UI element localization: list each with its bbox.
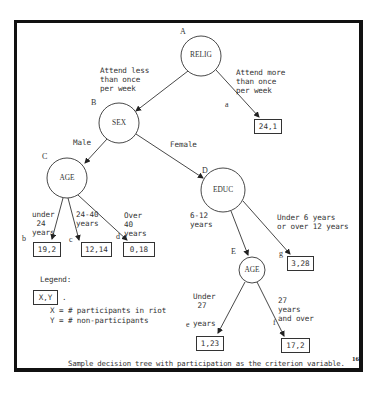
node-letter-b: B bbox=[91, 98, 96, 107]
legend-sample-box: X,Y bbox=[33, 290, 58, 305]
leaf-letter-e: e bbox=[186, 320, 190, 329]
legend-line-y: Y = # non-participants bbox=[50, 316, 148, 325]
node-letter-e: E bbox=[231, 247, 236, 256]
leaf-box-d: 0,18 bbox=[123, 242, 155, 257]
branch-label-educ-other: Under 6 years or over 12 years bbox=[277, 213, 349, 231]
branch-label-male: Male bbox=[73, 138, 91, 147]
tree-edges bbox=[0, 0, 382, 395]
branch-label-under-24: under 24 years bbox=[32, 210, 54, 237]
node-letter-a: A bbox=[180, 27, 186, 36]
node-letter-c: C bbox=[42, 152, 47, 161]
node-label-relig: RELIG bbox=[181, 50, 221, 59]
node-letter-d: D bbox=[202, 166, 208, 175]
leaf-box-f: 17,2 bbox=[281, 338, 310, 353]
leaf-box-c: 12,14 bbox=[81, 242, 112, 257]
leaf-letter-b: b bbox=[22, 234, 26, 243]
branch-label-female: Female bbox=[170, 140, 197, 149]
leaf-letter-c: c bbox=[69, 235, 73, 244]
legend-line-x: X = # participants in riot bbox=[50, 306, 166, 315]
page-mark: 16 bbox=[352, 355, 359, 363]
branch-label-relig-more: Attend more than once per week bbox=[236, 68, 285, 95]
branch-label-over-40: Over 40 years bbox=[124, 211, 146, 238]
node-label-age-c: AGE bbox=[47, 173, 87, 182]
branch-label-6-12: 6-12 years bbox=[190, 211, 212, 229]
branch-label-relig-less: Attend less than once per week bbox=[100, 66, 149, 93]
legend-dot: . bbox=[62, 293, 66, 302]
leaf-letter-a: a bbox=[225, 100, 229, 109]
node-label-sex: SEX bbox=[99, 118, 139, 127]
leaf-letter-f: f bbox=[273, 318, 276, 327]
branch-label-27-over: 27 years and over bbox=[278, 296, 314, 323]
legend-title: Legend: bbox=[40, 275, 71, 284]
figure-caption: Sample decision tree with participation … bbox=[68, 359, 345, 368]
leaf-letter-g: g bbox=[279, 249, 283, 258]
leaf-box-e: 1,23 bbox=[196, 336, 224, 351]
leaf-box-g: 3,28 bbox=[287, 256, 314, 271]
branch-label-under-27: Under 27 years bbox=[193, 292, 215, 328]
leaf-box-a: 24,1 bbox=[254, 119, 282, 134]
leaf-box-b: 19,2 bbox=[33, 242, 61, 257]
node-label-age-e: AGE bbox=[237, 265, 267, 274]
branch-label-24-40: 24-40 years bbox=[76, 210, 98, 228]
node-label-educ: EDUC bbox=[203, 185, 243, 194]
leaf-letter-d: d bbox=[116, 232, 120, 241]
